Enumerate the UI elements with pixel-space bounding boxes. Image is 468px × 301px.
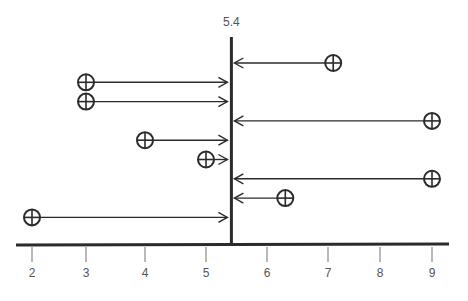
data-point — [234, 113, 440, 129]
data-point — [234, 55, 341, 71]
data-point — [78, 94, 227, 110]
data-point — [198, 152, 227, 168]
x-axis-ticks: 23456789 — [29, 247, 436, 280]
data-point — [234, 190, 293, 206]
x-tick-label: 9 — [429, 266, 436, 280]
x-tick-label: 2 — [29, 266, 36, 280]
reference-line-group: 5.4 — [223, 15, 240, 245]
x-tick-label: 5 — [203, 266, 210, 280]
x-tick-label: 7 — [325, 266, 332, 280]
x-tick-label: 6 — [264, 266, 271, 280]
data-point — [24, 209, 227, 225]
reference-line-label: 5.4 — [223, 15, 240, 29]
x-tick-label: 4 — [142, 266, 149, 280]
x-tick-label: 3 — [83, 266, 90, 280]
x-tick-label: 8 — [377, 266, 384, 280]
data-point — [78, 74, 227, 90]
data-point — [234, 171, 440, 187]
data-point — [137, 132, 227, 148]
deviation-diagram: 23456789 5.4 — [0, 0, 468, 301]
